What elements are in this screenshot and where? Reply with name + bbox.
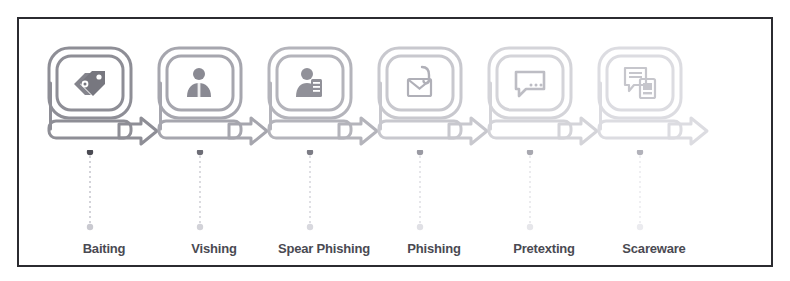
pipeline-stage: Phishing bbox=[371, 45, 497, 245]
pipeline-stage: Pretexting bbox=[481, 45, 607, 245]
pipeline-stage: Baiting bbox=[41, 45, 167, 245]
stage-connector bbox=[591, 150, 717, 240]
stage-connector bbox=[371, 150, 497, 240]
pipeline-stage: Scareware bbox=[591, 45, 717, 245]
stage-graphic bbox=[481, 45, 607, 150]
pipeline-stage: Vishing bbox=[151, 45, 277, 245]
attack-types-pipeline: Baiting V bbox=[19, 19, 771, 265]
diagram-frame: Baiting V bbox=[17, 17, 773, 267]
stage-graphic bbox=[151, 45, 277, 150]
pipeline-stage: Spear Phishing bbox=[261, 45, 387, 245]
stage-graphic bbox=[261, 45, 387, 150]
connector-top-dot bbox=[197, 150, 203, 155]
connector-bottom-dot bbox=[197, 224, 203, 230]
connector-bottom-dot bbox=[417, 224, 423, 230]
connector-bottom-dot bbox=[307, 224, 313, 230]
stage-connector bbox=[261, 150, 387, 240]
stage-connector bbox=[151, 150, 277, 240]
stage-connector bbox=[41, 150, 167, 240]
stage-connector bbox=[481, 150, 607, 240]
stage-graphic bbox=[41, 45, 167, 150]
connector-top-dot bbox=[87, 150, 93, 155]
clipped-heading-strip bbox=[0, 0, 790, 13]
connector-top-dot bbox=[307, 150, 313, 155]
connector-bottom-dot bbox=[87, 224, 93, 230]
connector-top-dot bbox=[527, 150, 533, 155]
stage-graphic bbox=[591, 45, 717, 150]
stage-graphic bbox=[371, 45, 497, 150]
connector-bottom-dot bbox=[527, 224, 533, 230]
connector-top-dot bbox=[417, 150, 423, 155]
connector-bottom-dot bbox=[637, 224, 643, 230]
connector-top-dot bbox=[637, 150, 643, 155]
stage-label: Scareware bbox=[579, 241, 729, 256]
